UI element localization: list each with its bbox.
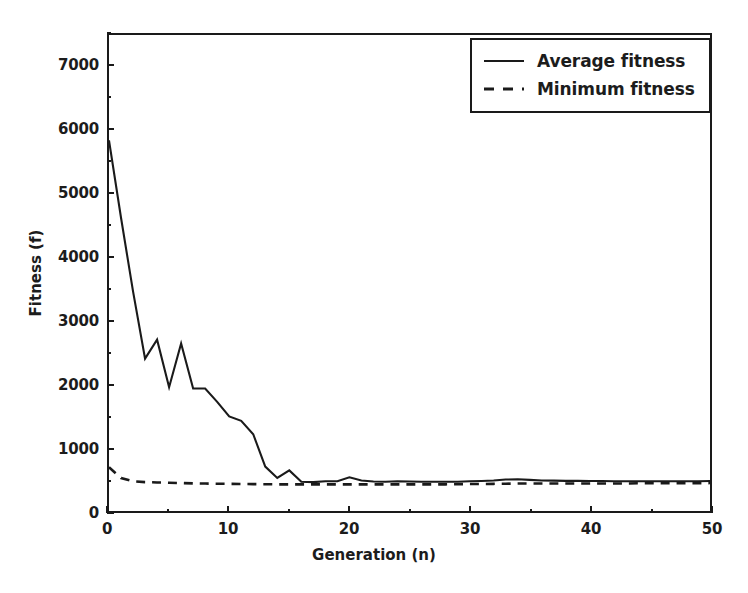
y-tick-mark	[107, 64, 114, 66]
y-tick-mark	[107, 128, 114, 130]
legend-item-minimum-fitness[interactable]: Minimum fitness	[482, 75, 695, 103]
x-minor-tick-mark	[288, 509, 290, 513]
y-tick-label: 2000	[58, 376, 99, 394]
y-minor-tick-mark	[107, 352, 111, 354]
dashed-line-swatch-icon	[482, 81, 526, 97]
y-minor-tick-mark	[107, 160, 111, 162]
x-minor-tick-mark	[651, 509, 653, 513]
y-tick-label: 0	[89, 504, 99, 522]
x-tick-label: 30	[460, 520, 480, 538]
y-tick-label: 6000	[58, 120, 99, 138]
x-tick-mark	[348, 506, 350, 513]
y-minor-tick-mark	[107, 288, 111, 290]
y-minor-tick-mark	[107, 32, 111, 34]
y-tick-mark	[107, 320, 114, 322]
y-tick-label: 7000	[58, 56, 99, 74]
x-tick-mark	[227, 506, 229, 513]
legend-label-average-fitness: Average fitness	[537, 51, 685, 71]
x-tick-mark	[711, 506, 713, 513]
y-tick-label: 1000	[58, 440, 99, 458]
chart-legend[interactable]: Average fitness Minimum fitness	[470, 38, 711, 113]
x-tick-mark	[106, 506, 108, 513]
x-minor-tick-mark	[530, 509, 532, 513]
legend-item-average-fitness[interactable]: Average fitness	[482, 47, 695, 75]
x-tick-label: 40	[581, 520, 601, 538]
legend-label-minimum-fitness: Minimum fitness	[537, 79, 695, 99]
x-tick-label: 50	[702, 520, 722, 538]
series-average-fitness-line	[109, 140, 710, 482]
solid-line-swatch-icon	[482, 53, 526, 69]
y-tick-label: 4000	[58, 248, 99, 266]
y-tick-mark	[107, 256, 114, 258]
y-minor-tick-mark	[107, 96, 111, 98]
y-tick-label: 3000	[58, 312, 99, 330]
y-tick-mark	[107, 192, 114, 194]
y-axis-title: Fitness (f)	[20, 33, 53, 513]
y-tick-mark	[107, 384, 114, 386]
x-tick-mark	[590, 506, 592, 513]
x-minor-tick-mark	[409, 509, 411, 513]
x-tick-mark	[469, 506, 471, 513]
x-minor-tick-mark	[167, 509, 169, 513]
y-minor-tick-mark	[107, 224, 111, 226]
x-tick-label: 0	[102, 520, 112, 538]
y-minor-tick-mark	[107, 480, 111, 482]
x-tick-label: 20	[339, 520, 359, 538]
y-tick-mark	[107, 512, 114, 514]
figure-canvas: 01000200030004000500060007000 Average fi…	[0, 0, 748, 593]
x-tick-label: 10	[218, 520, 238, 538]
y-tick-label: 5000	[58, 184, 99, 202]
x-axis-title: Generation (n)	[0, 546, 748, 564]
y-minor-tick-mark	[107, 416, 111, 418]
y-tick-mark	[107, 448, 114, 450]
